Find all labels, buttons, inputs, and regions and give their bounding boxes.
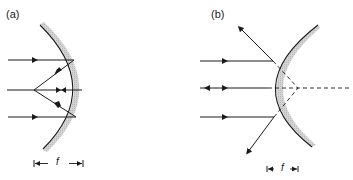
arrow-icon	[32, 114, 38, 120]
panel-a-concave-mirror	[7, 22, 83, 167]
mirror-b-backing	[276, 25, 320, 147]
arrow-icon	[222, 58, 228, 64]
arrow-icon	[32, 57, 38, 63]
mirror-a-surface	[40, 25, 73, 149]
arrow-icon	[222, 114, 228, 120]
double-arrow-icon	[56, 87, 66, 93]
arrow-icon	[204, 85, 210, 91]
arrow-icon	[54, 67, 62, 75]
optics-diagram	[0, 0, 353, 180]
focal-label-b: f	[281, 162, 284, 173]
panel-b-convex-mirror	[200, 25, 350, 172]
focal-label-a: f	[56, 156, 59, 167]
arrow-icon	[222, 85, 228, 91]
mirror-a-backing	[40, 22, 79, 152]
